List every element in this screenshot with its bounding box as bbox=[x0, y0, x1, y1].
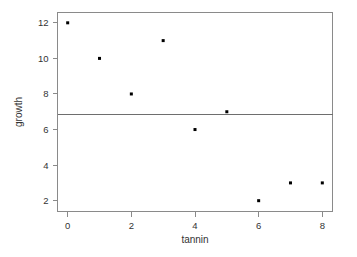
data-point bbox=[130, 92, 133, 95]
y-tick-label: 2 bbox=[43, 195, 48, 206]
x-tick-label: 8 bbox=[320, 220, 325, 231]
data-point bbox=[257, 199, 260, 202]
x-tick-label: 0 bbox=[65, 220, 70, 231]
data-point bbox=[321, 181, 324, 184]
y-tick-label: 10 bbox=[38, 53, 49, 64]
scatter-plot-figure: 24681012 02468 tannin growth bbox=[0, 0, 357, 257]
y-axis-title: growth bbox=[13, 97, 24, 127]
data-point bbox=[289, 181, 292, 184]
figure-background bbox=[0, 0, 357, 257]
y-tick-label: 6 bbox=[43, 124, 48, 135]
y-tick-label: 8 bbox=[43, 88, 48, 99]
x-tick-label: 2 bbox=[129, 220, 134, 231]
x-axis-title: tannin bbox=[181, 234, 208, 245]
data-point bbox=[66, 21, 69, 24]
data-point bbox=[225, 110, 228, 113]
data-point bbox=[98, 57, 101, 60]
y-tick-label: 12 bbox=[38, 17, 49, 28]
x-tick-label: 6 bbox=[256, 220, 261, 231]
data-point bbox=[194, 128, 197, 131]
x-tick-label: 4 bbox=[192, 220, 197, 231]
y-tick-label: 4 bbox=[43, 160, 48, 171]
plot-canvas: 24681012 02468 tannin growth bbox=[0, 0, 357, 257]
data-point bbox=[162, 39, 165, 42]
